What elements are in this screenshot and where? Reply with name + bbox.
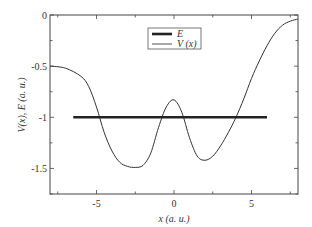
y-tick-label: 0 xyxy=(42,10,47,21)
x-axis-label: x (a. u.) xyxy=(157,213,190,225)
legend-label-v: V (x) xyxy=(177,38,197,50)
y-tick-label: -1.5 xyxy=(31,163,47,174)
x-tick-label: 0 xyxy=(172,198,177,209)
y-axis-label: V(x), E (a. u.) xyxy=(16,77,28,133)
y-tick-label: -0.5 xyxy=(31,61,47,72)
legend: E V (x) xyxy=(148,28,201,50)
x-tick-label: 5 xyxy=(249,198,254,209)
x-tick-label: -5 xyxy=(92,198,100,209)
chart: -5050-0.5-1-1.5 x (a. u.) V(x), E (a. u.… xyxy=(0,0,312,227)
y-tick-label: -1 xyxy=(39,112,47,123)
